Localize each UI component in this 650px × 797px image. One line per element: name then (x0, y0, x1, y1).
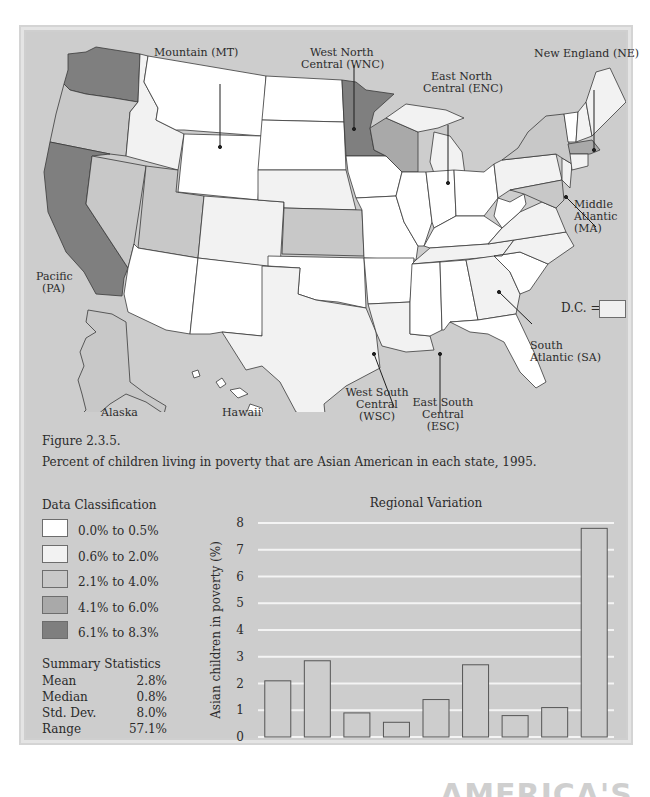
state-sd (258, 120, 346, 170)
stat-key: Range (42, 722, 81, 736)
y-tick-label: 2 (236, 677, 244, 691)
label-esc-3: (ESC) (411, 421, 475, 433)
label-wnc-2: Central (WNC) (301, 59, 384, 71)
stat-value: 0.8% (137, 690, 168, 704)
y-axis-label: Asian children in poverty (%) (209, 541, 223, 720)
y-tick-label: 8 (236, 516, 244, 530)
state-ct (570, 154, 588, 170)
legend-label: 0.6% to 2.0% (78, 550, 159, 564)
label-mountain: Mountain (MT) (154, 47, 238, 59)
bar-mt (542, 708, 568, 737)
legend-swatch (42, 570, 68, 588)
bar-pa (581, 528, 607, 737)
label-dc: D.C. = (561, 302, 600, 314)
state-ms (410, 262, 442, 336)
y-tick-label: 0 (236, 730, 244, 744)
legend-swatch (42, 621, 68, 639)
legend-swatch (42, 519, 68, 537)
legend-swatch (42, 545, 68, 563)
dc-swatch (599, 300, 626, 318)
stat-key: Mean (42, 674, 76, 688)
x-tick-label: PA (586, 746, 602, 747)
state-hi (192, 370, 200, 378)
y-tick-label: 4 (236, 623, 244, 637)
bar-wnc (463, 665, 489, 737)
x-tick-label: ESC (383, 746, 409, 747)
state-me (586, 68, 626, 136)
state-ks (282, 208, 364, 256)
figure-caption: Percent of children living in poverty th… (42, 455, 537, 469)
figure-frame: Mountain (MT) West North Central (WNC) E… (19, 25, 633, 745)
y-tick-label: 5 (236, 596, 244, 610)
label-pa-2: (PA) (42, 283, 65, 295)
state-hi-3 (230, 388, 248, 398)
label-ma-3: (MA) (574, 223, 602, 235)
x-tick-label: WNC (460, 746, 492, 747)
legend-swatch (42, 596, 68, 614)
label-alaska: Alaska (101, 407, 138, 419)
y-tick-label: 1 (236, 703, 244, 717)
stat-key: Std. Dev. (42, 706, 96, 720)
x-tick-label: ENC (422, 746, 450, 747)
x-tick-label: WSC (500, 746, 530, 747)
label-wsc-3: (WSC) (342, 411, 412, 423)
bar-wsc (502, 716, 528, 737)
y-tick-label: 3 (236, 650, 244, 664)
figure-number: Figure 2.3.5. (42, 434, 121, 448)
state-ny (502, 114, 572, 164)
bar-enc (423, 700, 449, 737)
bar-sa (344, 713, 370, 737)
label-sa-2: Atlantic (SA) (530, 352, 601, 364)
label-enc-2: Central (ENC) (423, 83, 503, 95)
page-footer-text: AMERICA'S CHILDREN (440, 775, 650, 797)
bar-ma (265, 681, 291, 737)
stat-row-stddev: Std. Dev. 8.0% (42, 706, 167, 721)
state-nd (262, 76, 344, 122)
legend-label: 2.1% to 4.0% (78, 575, 159, 589)
bar-esc (383, 722, 409, 737)
stat-value: 57.1% (129, 722, 167, 736)
y-tick-label: 7 (236, 543, 244, 557)
legend-label: 0.0% to 0.5% (78, 524, 159, 538)
label-ne: New England (NE) (534, 48, 639, 60)
x-tick-label: SA (348, 746, 365, 747)
regional-variation-bar-chart: 012345678Asian children in poverty (%)MA… (206, 507, 626, 747)
state-nm (190, 258, 268, 336)
stat-value: 8.0% (137, 706, 168, 720)
stat-row-mean: Mean 2.8% (42, 674, 167, 689)
state-hi-2 (216, 378, 226, 388)
state-az (124, 244, 198, 334)
stat-key: Median (42, 690, 88, 704)
legend-label: 6.1% to 8.3% (78, 626, 159, 640)
x-tick-label: MT (545, 746, 565, 747)
x-tick-label: MA (267, 746, 288, 747)
y-tick-label: 6 (236, 570, 244, 584)
stat-row-range: Range 57.1% (42, 722, 167, 737)
state-ak (72, 310, 166, 412)
figure-panel: Mountain (MT) West North Central (WNC) E… (26, 32, 626, 738)
label-hawaii: Hawaii (222, 407, 261, 419)
stat-value: 2.8% (137, 674, 168, 688)
legend-label: 4.1% to 6.0% (78, 601, 159, 615)
summary-title: Summary Statistics (42, 657, 161, 671)
bar-ne (304, 661, 330, 737)
stat-row-median: Median 0.8% (42, 690, 167, 705)
state-oh (454, 164, 498, 216)
legend-title: Data Classification (42, 498, 156, 512)
state-ar (364, 258, 414, 304)
x-tick-label: NE (308, 746, 327, 747)
